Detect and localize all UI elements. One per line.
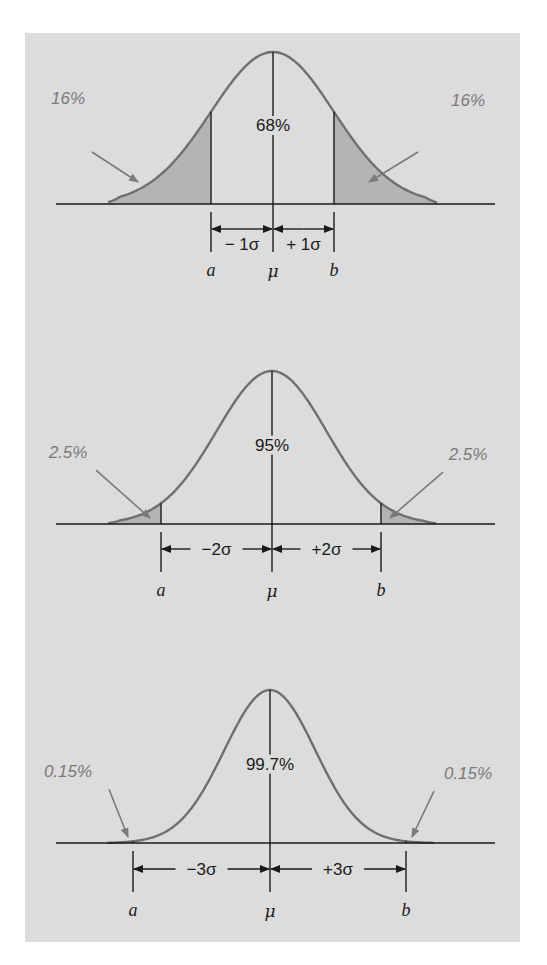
minus-sigma-label: − 1σ — [225, 235, 260, 254]
b-label: b — [402, 900, 411, 920]
center-percent-label: 99.7% — [246, 755, 294, 774]
center-percent-label: 95% — [255, 436, 289, 455]
left-tail-percent-label: 16% — [51, 89, 85, 108]
left-tail-pointer-arrow — [109, 789, 128, 837]
plus-sigma-label: +3σ — [323, 860, 353, 879]
right-tail-pointer-arrow — [390, 472, 443, 518]
left-tail-percent-label: 0.15% — [44, 762, 92, 781]
mu-label: μ — [266, 581, 277, 601]
minus-sigma-label: −3σ — [187, 860, 217, 879]
center-percent-label: 68% — [256, 116, 290, 135]
plus-sigma-label: +2σ — [312, 540, 342, 559]
mu-label: μ — [264, 901, 275, 921]
left-tail-shade — [108, 112, 211, 204]
a-label: a — [129, 900, 138, 920]
left-tail-pointer-arrow — [96, 470, 150, 518]
right-tail-percent-label: 0.15% — [444, 764, 492, 783]
right-tail-percent-label: 16% — [451, 91, 485, 110]
left-tail-percent-label: 2.5% — [48, 443, 88, 462]
b-label: b — [377, 580, 386, 600]
left-tail-pointer-arrow — [92, 152, 138, 182]
panel-3sigma: 99.7% 0.15% 0.15% −3σ +3σ a μ b — [44, 690, 495, 921]
normal-curves-figure: 68% 16% 16% − 1σ + 1σ a μ b 95% 2.5% 2.5… — [0, 0, 547, 965]
right-tail-pointer-arrow — [412, 791, 434, 837]
panel-1sigma: 68% 16% 16% − 1σ + 1σ a μ b — [51, 52, 495, 281]
plus-sigma-label: + 1σ — [286, 235, 321, 254]
right-tail-shade — [334, 112, 437, 204]
minus-sigma-label: −2σ — [202, 540, 232, 559]
a-label: a — [157, 580, 166, 600]
right-tail-percent-label: 2.5% — [448, 445, 488, 464]
b-label: b — [330, 260, 339, 280]
panel-2sigma: 95% 2.5% 2.5% −2σ +2σ a μ b — [48, 371, 495, 601]
a-label: a — [207, 260, 216, 280]
mu-label: μ — [267, 261, 278, 281]
